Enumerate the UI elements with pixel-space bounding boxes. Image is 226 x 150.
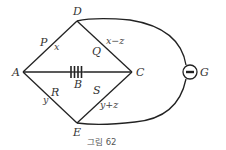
resistor-label-S: S	[93, 84, 101, 97]
current-label-AE: y	[42, 94, 49, 105]
wire-E-C	[77, 72, 132, 123]
node-label-D: D	[72, 5, 82, 18]
wire-A-D	[23, 21, 77, 72]
node-label-E: E	[72, 126, 81, 139]
node-label-G: G	[200, 66, 209, 79]
node-label-A: A	[11, 66, 20, 79]
resistor-label-P: P	[39, 36, 48, 49]
node-label-B: B	[73, 78, 82, 91]
resistor-label-R: R	[50, 86, 59, 99]
figure-caption: 그림 62	[87, 137, 117, 147]
current-label-EC: y+z	[99, 99, 119, 110]
wire-A-E	[23, 72, 77, 123]
battery-icon	[70, 66, 84, 78]
wire-D-C	[77, 21, 132, 72]
resistor-label-Q: Q	[92, 45, 101, 58]
wire-D-G	[77, 19, 186, 65]
wheatstone-bridge-diagram: A D C E B G P Q R S x x−z y y+z 그림 62	[0, 0, 226, 150]
galvanometer-icon	[183, 65, 197, 79]
current-label-DC: x−z	[106, 35, 125, 46]
current-label-AD: x	[54, 41, 60, 52]
node-label-C: C	[136, 66, 145, 79]
